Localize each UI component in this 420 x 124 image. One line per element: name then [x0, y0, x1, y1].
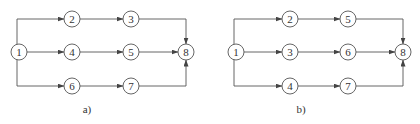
svg-text:4: 4: [69, 46, 75, 58]
svg-text:1: 1: [233, 46, 239, 58]
caption-a: a): [83, 103, 92, 116]
svg-text:3: 3: [128, 13, 134, 25]
svg-text:5: 5: [345, 13, 351, 25]
diagram-b: 1 2 5 3 6 4 7 8 b): [228, 11, 411, 116]
svg-text:7: 7: [345, 80, 351, 92]
svg-text:8: 8: [183, 46, 189, 58]
svg-text:3: 3: [287, 46, 293, 58]
node-b-4: 4: [282, 78, 298, 94]
node-a-4: 4: [64, 44, 80, 60]
node-a-7: 7: [123, 78, 139, 94]
svg-text:2: 2: [287, 13, 293, 25]
edge-1-6: [17, 59, 64, 86]
node-b-7: 7: [340, 78, 356, 94]
edge-1-2: [234, 19, 282, 45]
node-b-3: 3: [282, 44, 298, 60]
edge-5-8: [356, 19, 403, 44]
svg-text:1: 1: [16, 46, 22, 58]
edge-3-8: [139, 19, 186, 44]
svg-text:5: 5: [128, 46, 134, 58]
svg-text:6: 6: [69, 80, 75, 92]
edge-7-8: [139, 60, 186, 86]
node-b-5: 5: [340, 11, 356, 27]
node-a-8: 8: [178, 44, 194, 60]
edge-1-4: [234, 59, 282, 86]
node-b-6: 6: [340, 44, 356, 60]
edge-7-8: [356, 60, 403, 86]
svg-text:7: 7: [128, 80, 134, 92]
svg-text:4: 4: [287, 80, 293, 92]
diagram-a: 1 2 3 4 5 6 7 8 a): [11, 11, 194, 116]
svg-text:2: 2: [69, 13, 75, 25]
svg-text:6: 6: [345, 46, 351, 58]
svg-text:8: 8: [400, 46, 406, 58]
node-a-2: 2: [64, 11, 80, 27]
network-diagrams: 1 2 3 4 5 6 7 8 a) 1 2 5 3 6 4 7 8 b): [0, 0, 420, 124]
node-b-8: 8: [395, 44, 411, 60]
node-a-1: 1: [11, 44, 27, 60]
node-a-6: 6: [64, 78, 80, 94]
node-b-1: 1: [228, 44, 244, 60]
edge-1-2: [17, 19, 64, 45]
node-a-3: 3: [123, 11, 139, 27]
caption-b: b): [296, 103, 306, 116]
node-a-5: 5: [123, 44, 139, 60]
node-b-2: 2: [282, 11, 298, 27]
